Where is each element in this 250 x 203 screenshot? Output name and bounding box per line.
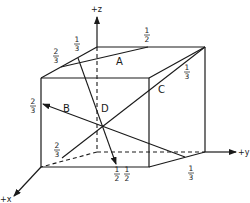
svg-text:3: 3 — [54, 56, 59, 65]
svg-text:2: 2 — [54, 47, 59, 56]
svg-text:2: 2 — [115, 174, 120, 183]
vector-d-label: D — [101, 103, 109, 114]
unit-cube-diagram: +z +y +x A B C D 2 3 1 3 1 2 1 3 2 3 2 3… — [0, 0, 250, 203]
fraction-bottom-left-2-3: 2 3 — [54, 141, 60, 159]
vector-c — [62, 47, 205, 158]
svg-text:2: 2 — [125, 174, 130, 183]
svg-text:2: 2 — [31, 97, 36, 106]
fraction-top-left-1-3: 1 3 — [74, 35, 80, 53]
fraction-bottom-front-1-2-a: 1 2 — [114, 165, 120, 183]
vector-b-label: B — [63, 103, 70, 114]
svg-text:1: 1 — [115, 165, 120, 174]
fraction-bottom-front-1-2-b: 1 2 — [124, 165, 130, 183]
fraction-top-left-2-3: 2 3 — [53, 47, 59, 65]
fraction-top-right-1-3: 1 3 — [184, 63, 190, 81]
svg-text:2: 2 — [55, 141, 60, 150]
svg-text:1: 1 — [189, 164, 194, 173]
svg-text:3: 3 — [75, 44, 80, 53]
y-axis-label: +y — [238, 148, 250, 157]
svg-text:1: 1 — [125, 165, 130, 174]
svg-text:1: 1 — [75, 35, 80, 44]
fraction-top-back-1-2: 1 2 — [144, 26, 150, 44]
vector-c-label: C — [158, 84, 165, 95]
z-axis-label: +z — [91, 5, 102, 14]
svg-text:3: 3 — [55, 150, 60, 159]
svg-text:1: 1 — [185, 63, 190, 72]
vector-a-label: A — [116, 56, 123, 67]
svg-text:3: 3 — [185, 72, 190, 81]
x-axis-label: +x — [0, 195, 12, 203]
svg-text:3: 3 — [31, 106, 36, 115]
fraction-left-front-2-3: 2 3 — [30, 97, 36, 115]
svg-text:1: 1 — [145, 26, 150, 35]
fraction-bottom-right-1-3: 1 3 — [188, 164, 194, 182]
svg-text:2: 2 — [145, 35, 150, 44]
svg-text:3: 3 — [189, 173, 194, 182]
